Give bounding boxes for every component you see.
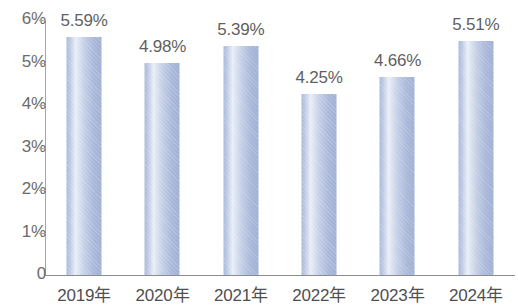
bar-value-label: 5.39% [217,20,264,40]
bar-group: 5.39%2021年 [202,0,280,308]
x-axis-category-label: 2023年 [371,281,425,306]
x-axis-category-label: 2021年 [214,281,268,306]
y-axis-tick-label: 2% [10,179,46,199]
bar-value-label: 5.51% [452,15,499,35]
bar-chart: 01%2%3%4%5%6% 5.59%2019年4.98%2020年5.39%2… [0,0,518,308]
bar[interactable] [145,63,180,275]
x-axis-line [45,275,515,276]
bar-group: 4.98%2020年 [123,0,201,308]
bar-group: 4.25%2022年 [280,0,358,308]
bar[interactable] [458,41,493,275]
y-axis-tick-label: 1% [10,222,46,242]
bar-value-label: 4.66% [374,51,421,71]
bar[interactable] [223,46,258,275]
y-axis-tick-label: 5% [10,52,46,72]
y-axis-tick-label: 3% [10,137,46,157]
bar-value-label: 4.98% [139,37,186,57]
plot-area: 5.59%2019年4.98%2020年5.39%2021年4.25%2022年… [45,0,515,308]
y-axis-tick-label: 0 [10,264,46,284]
y-axis-tick-label: 4% [10,94,46,114]
y-axis-tick-label: 6% [10,9,46,29]
bar-group: 5.51%2024年 [437,0,515,308]
bar-group: 4.66%2023年 [358,0,436,308]
bar[interactable] [380,77,415,275]
x-axis-category-label: 2024年 [449,281,503,306]
bar[interactable] [67,37,102,275]
bar-group: 5.59%2019年 [45,0,123,308]
bar-value-label: 5.59% [61,11,108,31]
x-axis-category-label: 2019年 [57,281,111,306]
bar[interactable] [302,94,337,275]
bar-value-label: 4.25% [296,68,343,88]
x-axis-category-label: 2022年 [292,281,346,306]
x-axis-category-label: 2020年 [136,281,190,306]
